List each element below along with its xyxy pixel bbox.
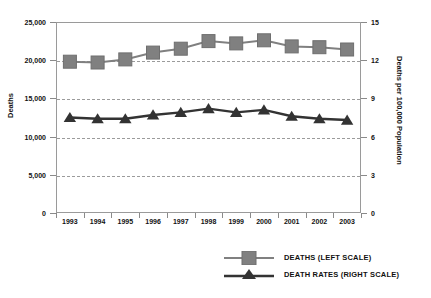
y-tick-label-left: 25,000 <box>6 19 46 26</box>
legend-item-deaths[interactable]: DEATHS (LEFT SCALE) <box>222 249 399 266</box>
y-tick-label-right: 15 <box>371 19 379 26</box>
y-tick-label-right: 9 <box>371 95 375 102</box>
x-tick-mark <box>333 213 334 218</box>
x-tick-mark <box>84 213 85 218</box>
chart-container: Deaths Deaths per 100,000 Population 05,… <box>0 0 431 298</box>
y-tick-label-left: 0 <box>6 210 46 217</box>
y-tick-mark-right <box>361 98 367 99</box>
x-tick-mark <box>167 213 168 218</box>
gridline <box>57 138 360 139</box>
y-tick-label-left: 15,000 <box>6 95 46 102</box>
x-tick-mark <box>306 213 307 218</box>
y-tick-label-right: 0 <box>371 210 375 217</box>
y-tick-label-right: 12 <box>371 57 379 64</box>
y-tick-label-right: 3 <box>371 171 375 178</box>
x-tick-mark <box>278 213 279 218</box>
gridline <box>57 61 360 62</box>
chart-legend: DEATHS (LEFT SCALE) DEATH RATES (RIGHT S… <box>222 249 399 283</box>
x-tick-label: 1995 <box>118 218 134 225</box>
y-tick-mark-right <box>361 22 367 23</box>
x-tick-mark <box>250 213 251 218</box>
x-tick-label: 1996 <box>145 218 161 225</box>
x-tick-label: 1999 <box>228 218 244 225</box>
gridline <box>57 176 360 177</box>
y-tick-label-right: 6 <box>371 133 375 140</box>
y-tick-mark-right <box>361 60 367 61</box>
legend-square-icon <box>222 251 276 265</box>
x-tick-label: 1998 <box>201 218 217 225</box>
y-axis-right-title: Deaths per 100,000 Population <box>395 56 404 165</box>
y-tick-label-left: 20,000 <box>6 57 46 64</box>
x-tick-label: 1994 <box>90 218 106 225</box>
x-tick-label: 1997 <box>173 218 189 225</box>
legend-item-death-rates[interactable]: DEATH RATES (RIGHT SCALE) <box>222 266 399 283</box>
x-tick-label: 1993 <box>62 218 78 225</box>
legend-triangle-icon <box>222 268 276 282</box>
plot-area <box>56 22 361 213</box>
y-tick-label-left: 5,000 <box>6 171 46 178</box>
x-tick-label: 2003 <box>339 218 355 225</box>
x-tick-label: 2002 <box>312 218 328 225</box>
x-tick-mark <box>361 213 362 218</box>
y-tick-mark-right <box>361 175 367 176</box>
x-tick-label: 2001 <box>284 218 300 225</box>
x-tick-mark <box>56 213 57 218</box>
x-tick-mark <box>139 213 140 218</box>
x-tick-mark <box>222 213 223 218</box>
y-tick-mark-right <box>361 137 367 138</box>
x-tick-label: 2000 <box>256 218 272 225</box>
y-tick-label-left: 10,000 <box>6 133 46 140</box>
legend-label-deaths: DEATHS (LEFT SCALE) <box>284 253 371 262</box>
gridline <box>57 99 360 100</box>
legend-label-death-rates: DEATH RATES (RIGHT SCALE) <box>284 270 399 279</box>
x-tick-mark <box>195 213 196 218</box>
x-tick-mark <box>111 213 112 218</box>
